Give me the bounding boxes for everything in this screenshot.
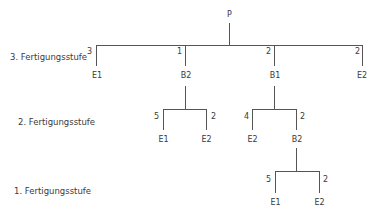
- qty-l2-b2-e1: 5: [154, 112, 159, 122]
- tree-connectors: [0, 0, 374, 213]
- qty-l3-e1: 3: [87, 47, 92, 57]
- qty-l1-b2-e1: 5: [266, 175, 271, 185]
- level-label-3: 3. Fertigungsstufe: [10, 52, 87, 62]
- level-label-1: 1. Fertigungsstufe: [14, 186, 91, 196]
- node-l2-b2-e1: E1: [158, 135, 168, 145]
- node-l1-b2-e1: E1: [270, 198, 280, 208]
- node-l3-b2: B2: [181, 71, 192, 81]
- qty-l3-b1: 2: [266, 47, 271, 57]
- node-l3-b1: B1: [270, 71, 281, 81]
- qty-l2-b1-e2: 4: [244, 112, 249, 122]
- node-l2-b1-b2: B2: [292, 135, 303, 145]
- qty-l2-b2-e2: 2: [211, 112, 216, 122]
- node-l3-e2: E2: [357, 71, 367, 81]
- qty-l3-b2: 1: [177, 47, 182, 57]
- node-l2-b1-e2: E2: [247, 135, 257, 145]
- qty-l3-e2: 2: [355, 47, 360, 57]
- root-node-p: P: [227, 10, 232, 20]
- node-l3-e1: E1: [92, 71, 102, 81]
- qty-l2-b1-b2: 2: [300, 112, 305, 122]
- level-label-2: 2. Fertigungsstufe: [18, 117, 95, 127]
- node-l2-b2-e2: E2: [201, 135, 211, 145]
- qty-l1-b2-e2: 2: [323, 175, 328, 185]
- node-l1-b2-e2: E2: [314, 198, 324, 208]
